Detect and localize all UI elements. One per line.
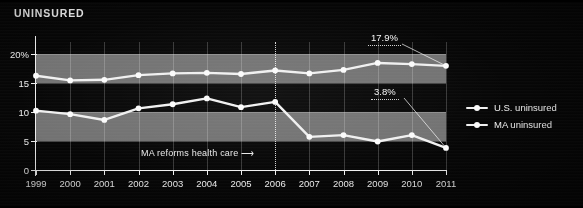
- data-point-marker: [341, 67, 347, 73]
- legend-label-us: U.S. uninsured: [494, 102, 557, 113]
- legend-marker-icon: [466, 120, 488, 129]
- bottom-edge: [0, 206, 583, 208]
- data-point-marker: [375, 60, 381, 66]
- legend-item-ma: MA uninsured: [466, 116, 557, 133]
- data-point-marker: [136, 105, 142, 111]
- data-point-marker: [306, 134, 312, 140]
- data-point-marker: [409, 132, 415, 138]
- data-point-marker: [33, 108, 39, 114]
- data-point-marker: [204, 96, 210, 102]
- data-point-marker: [136, 72, 142, 78]
- data-point-marker: [272, 68, 278, 74]
- chart-screenshot: UNINSURED 05101520% 17.9% 3.8% MA reform…: [0, 0, 583, 208]
- data-point-marker: [67, 78, 73, 84]
- data-point-marker: [170, 71, 176, 77]
- leader-line-us: [402, 44, 446, 66]
- legend-marker-icon: [466, 103, 488, 112]
- reform-annotation: MA reforms health care ⟶: [141, 148, 254, 158]
- legend-label-ma: MA uninsured: [494, 119, 552, 130]
- data-point-marker: [409, 61, 415, 67]
- data-point-marker: [204, 70, 210, 76]
- legend-item-us: U.S. uninsured: [466, 99, 557, 116]
- data-point-marker: [101, 117, 107, 123]
- data-point-marker: [272, 99, 278, 105]
- callout-ma-2011: 3.8%: [371, 85, 399, 100]
- data-point-marker: [101, 77, 107, 83]
- data-point-marker: [33, 73, 39, 79]
- data-point-marker: [67, 111, 73, 117]
- data-point-marker: [375, 139, 381, 145]
- callout-us-2011: 17.9%: [368, 31, 401, 46]
- data-point-marker: [341, 132, 347, 138]
- page-title: UNINSURED: [14, 7, 85, 19]
- data-point-marker: [170, 101, 176, 107]
- legend: U.S. uninsured MA uninsured: [466, 99, 557, 133]
- data-point-marker: [238, 71, 244, 77]
- data-point-marker: [238, 104, 244, 110]
- data-point-marker: [306, 71, 312, 77]
- top-edge: [0, 0, 583, 2]
